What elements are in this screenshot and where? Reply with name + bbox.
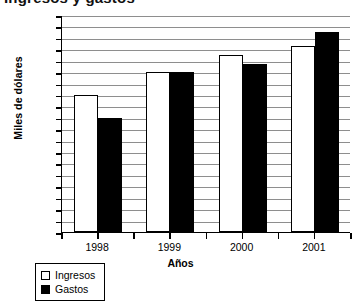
- y-axis-title: Miles de dólares: [12, 33, 24, 163]
- x-tick-label: 2001: [279, 241, 349, 253]
- x-tick-label: 2000: [207, 241, 277, 253]
- gridline: [62, 16, 350, 17]
- legend-swatch-icon-ingresos: [41, 271, 50, 280]
- bar-ingresos-2000: [219, 55, 243, 232]
- bar-gastos-2000: [243, 64, 267, 232]
- chart-figure: Ingresos y gastos Miles de dólares 02468…: [0, 0, 361, 306]
- legend-item-gastos: Gastos: [41, 282, 95, 296]
- x-boundary-tick: [278, 233, 280, 239]
- x-tick-label: 1998: [62, 241, 132, 253]
- bar-ingresos-1999: [146, 72, 170, 232]
- bar-ingresos-1998: [74, 95, 98, 232]
- gridline: [62, 39, 350, 40]
- x-tick: [314, 233, 316, 239]
- bar-gastos-2001: [315, 32, 339, 232]
- x-tick: [169, 233, 171, 239]
- bar-gastos-1999: [170, 72, 194, 232]
- gridline: [62, 27, 350, 28]
- plot-area: [61, 16, 350, 233]
- chart-legend: Ingresos Gastos: [35, 263, 105, 301]
- legend-label-ingresos: Ingresos: [55, 269, 95, 281]
- x-boundary-tick: [350, 233, 352, 239]
- x-boundary-tick: [61, 233, 63, 239]
- x-boundary-tick: [133, 233, 135, 239]
- legend-label-gastos: Gastos: [55, 283, 88, 295]
- legend-item-ingresos: Ingresos: [41, 268, 95, 282]
- x-tick-label: 1999: [134, 241, 204, 253]
- bar-ingresos-2001: [291, 46, 315, 232]
- x-tick: [97, 233, 99, 239]
- legend-swatch-icon-gastos: [41, 285, 50, 294]
- x-tick: [242, 233, 244, 239]
- bar-gastos-1998: [98, 118, 122, 232]
- x-boundary-tick: [206, 233, 208, 239]
